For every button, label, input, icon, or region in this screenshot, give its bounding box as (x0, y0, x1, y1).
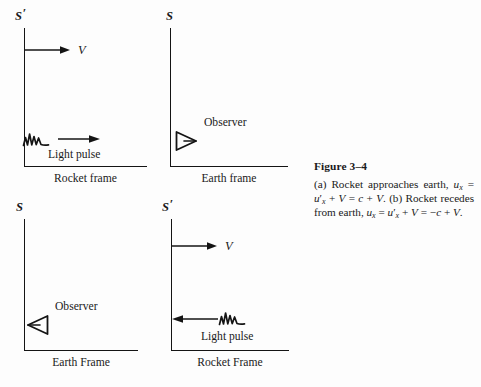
panel-top-right-caption: Earth frame (170, 172, 288, 185)
panel-top-left-caption: Rocket frame (24, 172, 147, 185)
panel-bottom-right-velocity-arrow (171, 240, 219, 252)
panel-top-left-pulse-arrow (57, 133, 101, 145)
frame-symbol: S (15, 9, 22, 23)
frame-symbol: S (162, 200, 169, 214)
panel-top-left-content-label: Light pulse (48, 148, 101, 161)
figure-caption-block: Figure 3–4 (a) Rocket approaches earth, … (314, 160, 474, 221)
panel-bottom-left-content-label: Observer (55, 300, 98, 313)
caption-part-a: (a) Rocket approaches earth, (314, 178, 449, 190)
panel-top-right-observer-eye-icon (173, 129, 200, 153)
panel-bottom-left-frame-label: S (16, 200, 23, 215)
figure-caption-title: Figure 3–4 (314, 160, 474, 172)
panel-bottom-right-content-label: Light pulse (201, 330, 254, 343)
panel-top-right-frame-label: S (166, 9, 173, 24)
panel-top-right-y-axis (170, 28, 171, 167)
panel-bottom-left-caption: Earth Frame (24, 356, 138, 369)
figure-3-4: S′ V Light pulse Rocket frame S (0, 0, 481, 387)
panel-bottom-right-caption: Rocket Frame (171, 356, 289, 369)
panel-bottom-right-pulse-arrow (171, 313, 219, 325)
panel-top-right-x-axis (170, 166, 288, 167)
frame-symbol: S (166, 9, 173, 23)
panel-bottom-right-x-axis (171, 350, 289, 351)
panel-bottom-right-frame-label: S′ (162, 200, 173, 215)
panel-top-left-velocity-arrow (24, 44, 72, 56)
panel-top-left-x-axis (24, 166, 147, 167)
frame-symbol: S (16, 200, 23, 214)
frame-prime: ′ (23, 6, 27, 20)
panel-bottom-right-y-axis (171, 219, 172, 351)
figure-caption-body: (a) Rocket approaches earth, ux = u′x + … (314, 179, 474, 221)
frame-prime: ′ (170, 197, 174, 211)
panel-bottom-right-velocity-label: V (225, 239, 233, 254)
panel-top-right-content-label: Observer (204, 116, 247, 129)
caption-equation-b: ux = u′x + V = −c + V. (367, 206, 463, 218)
panel-bottom-right-light-pulse-wave (218, 308, 248, 326)
panel-top-left-frame-label: S′ (15, 9, 26, 24)
panel-top-left-light-pulse-wave (22, 129, 52, 147)
panel-bottom-left-x-axis (24, 350, 138, 351)
panel-bottom-left-observer-eye-icon (24, 313, 51, 337)
panel-top-left-velocity-label: V (78, 43, 86, 58)
